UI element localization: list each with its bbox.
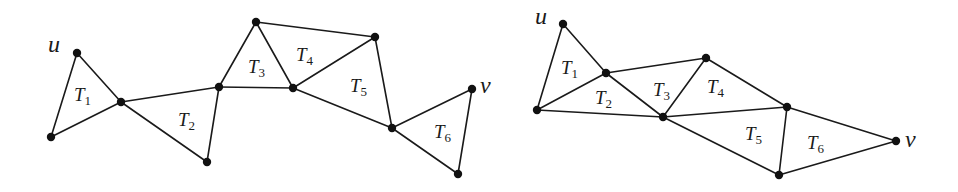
triangle-label-t6: T6 bbox=[807, 132, 825, 156]
triangle-label-t2: T2 bbox=[595, 87, 612, 111]
vertex-p6 bbox=[454, 170, 462, 178]
vertex-d bbox=[659, 113, 667, 121]
vertex-label-u: u bbox=[535, 3, 547, 29]
edge-b-c bbox=[606, 58, 706, 73]
edge-e-f bbox=[779, 107, 787, 175]
triangle-chain-figure: uvT1T2T3T4T5T6 uvT1T2T3T4T5T6 bbox=[0, 0, 958, 192]
edge-p3-p4 bbox=[256, 22, 375, 37]
edge-v-p6 bbox=[458, 89, 472, 174]
vertex-p2 bbox=[203, 158, 211, 166]
vertex-v bbox=[468, 85, 476, 93]
left-triangle-chain: uvT1T2T3T4T5T6 bbox=[47, 18, 491, 178]
vertex-h2 bbox=[215, 83, 223, 91]
edge-p2-h2 bbox=[207, 87, 219, 162]
right-triangle-chain: uvT1T2T3T4T5T6 bbox=[533, 3, 916, 179]
vertex-v bbox=[892, 137, 900, 145]
vertex-e bbox=[783, 103, 791, 111]
vertex-c bbox=[702, 54, 710, 62]
triangle-label-t3: T3 bbox=[248, 56, 265, 80]
vertex-a bbox=[533, 106, 541, 114]
triangle-label-t5: T5 bbox=[745, 123, 762, 147]
vertex-label-u: u bbox=[48, 31, 60, 57]
triangle-label-t5: T5 bbox=[350, 75, 367, 99]
triangle-label-t1: T1 bbox=[74, 84, 91, 108]
edge-f-v bbox=[779, 141, 896, 175]
triangle-label-t2: T2 bbox=[178, 109, 195, 133]
vertex-b bbox=[602, 69, 610, 77]
edge-a-d bbox=[537, 110, 663, 117]
triangle-label-t4: T4 bbox=[707, 76, 725, 100]
triangle-label-t3: T3 bbox=[653, 79, 670, 103]
edge-e-v bbox=[787, 107, 896, 141]
vertex-f bbox=[775, 171, 783, 179]
edge-u-a bbox=[537, 24, 563, 110]
triangle-label-t4: T4 bbox=[296, 44, 314, 68]
vertex-h3 bbox=[289, 84, 297, 92]
vertex-u bbox=[73, 49, 81, 57]
edge-h4-v bbox=[392, 89, 472, 128]
vertex-h1 bbox=[117, 98, 125, 106]
edge-h3-h4 bbox=[293, 88, 392, 128]
vertex-h4 bbox=[388, 124, 396, 132]
triangle-label-t6: T6 bbox=[434, 121, 452, 145]
vertex-p1 bbox=[47, 133, 55, 141]
edge-h1-h2 bbox=[121, 87, 219, 102]
vertex-label-v: v bbox=[905, 126, 916, 152]
vertex-u bbox=[559, 20, 567, 28]
triangle-label-t1: T1 bbox=[561, 57, 578, 81]
edge-h2-h3 bbox=[219, 87, 293, 88]
vertex-label-v: v bbox=[480, 72, 491, 98]
vertex-p3 bbox=[252, 18, 260, 26]
edge-p4-h4 bbox=[375, 37, 392, 128]
edge-h2-p3 bbox=[219, 22, 256, 87]
vertex-p4 bbox=[371, 33, 379, 41]
edge-d-e bbox=[663, 107, 787, 117]
